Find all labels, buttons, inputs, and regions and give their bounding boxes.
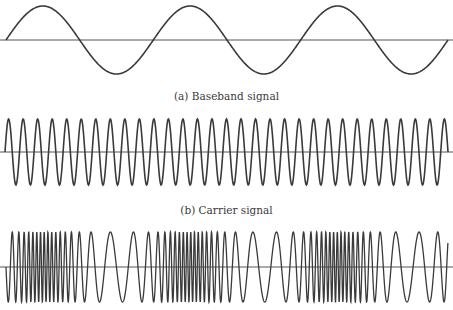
carrier-caption: (b) Carrier signal bbox=[0, 204, 453, 216]
modulation-figure bbox=[0, 0, 453, 310]
baseband-caption: (a) Baseband signal bbox=[0, 90, 453, 102]
